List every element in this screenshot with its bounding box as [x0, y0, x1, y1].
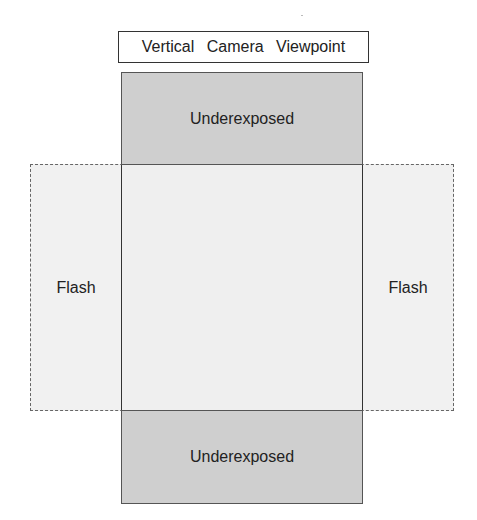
underexposed-bottom-region: Underexposed: [121, 410, 363, 504]
underexposed-top-label: Underexposed: [190, 110, 294, 128]
flash-left-label: Flash: [56, 279, 95, 297]
underexposed-top-region: Underexposed: [121, 72, 363, 165]
flash-left-label-wrap: Flash: [30, 164, 122, 411]
speck: [301, 15, 303, 16]
diagram-title: Vertical Camera Viewpoint: [118, 31, 369, 63]
flash-right-label: Flash: [388, 279, 427, 297]
flash-right-label-wrap: Flash: [362, 164, 454, 411]
camera-field-square: [121, 164, 363, 411]
underexposed-bottom-label: Underexposed: [190, 448, 294, 466]
